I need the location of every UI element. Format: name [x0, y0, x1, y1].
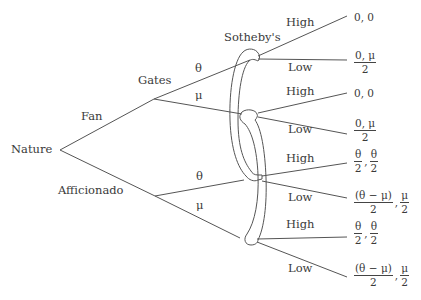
payoff-6: (θ − μ)2 , μ2	[354, 190, 409, 214]
payoff-3: 0, 0	[354, 88, 374, 99]
fan-branch-label: Fan	[81, 111, 102, 123]
sothebys-label: Sotheby's	[224, 32, 281, 44]
gates-mu-label: μ	[195, 90, 202, 102]
action-low-3: Low	[288, 192, 312, 204]
aff-mu-label: μ	[196, 200, 203, 212]
action-low-1: Low	[288, 62, 312, 74]
action-high-3: High	[286, 153, 314, 165]
action-high-1: High	[286, 17, 314, 29]
edge-s4-high	[257, 237, 347, 239]
payoff-2: 0, μ2	[354, 50, 376, 74]
gates-label: Gates	[138, 75, 171, 87]
payoff-1: 0, 0	[354, 12, 374, 23]
payoff-7: θ2 , θ2	[354, 221, 378, 245]
payoff-5: θ2 , θ2	[354, 149, 378, 173]
aff-theta-label: θ	[196, 171, 203, 183]
afficionado-branch-label: Afficionado	[58, 185, 124, 197]
payoff-8: (θ − μ)2 , μ2	[354, 263, 409, 287]
action-low-2: Low	[288, 124, 312, 136]
edge-fan	[60, 99, 154, 150]
action-high-4: High	[286, 219, 314, 231]
gates-theta-label: θ	[195, 63, 202, 75]
action-low-4: Low	[288, 263, 312, 275]
action-high-2: High	[286, 86, 314, 98]
nature-label: Nature	[11, 144, 52, 156]
payoff-4: 0, μ2	[354, 118, 376, 142]
